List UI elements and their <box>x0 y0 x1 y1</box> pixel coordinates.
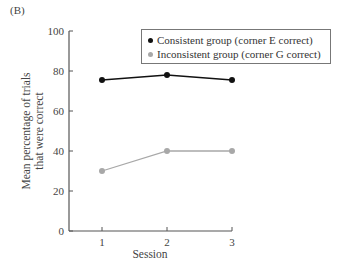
legend-marker-icon <box>148 38 153 43</box>
data-point-marker <box>164 148 170 154</box>
y-axis-title: Mean percentage of trialsthat were corre… <box>20 72 45 190</box>
data-point-marker <box>229 148 235 154</box>
y-axis-title-line: that were correct <box>33 92 45 170</box>
y-tick-label: 20 <box>53 185 65 197</box>
legend-label: Inconsistent group (corner G correct) <box>157 47 321 61</box>
data-point-marker <box>229 77 235 83</box>
y-tick-label: 0 <box>59 225 65 237</box>
y-tick-label: 60 <box>53 105 65 117</box>
legend-item-consistent: Consistent group (corner E correct) <box>148 33 324 47</box>
x-tick-label: 1 <box>99 236 105 248</box>
legend: Consistent group (corner E correct) Inco… <box>141 29 331 64</box>
y-tick-label: 80 <box>53 65 65 77</box>
x-tick-label: 2 <box>164 236 170 248</box>
data-point-marker <box>164 72 170 78</box>
y-tick-label: 100 <box>48 25 65 37</box>
legend-item-inconsistent: Inconsistent group (corner G correct) <box>148 47 324 61</box>
series-layer <box>99 72 235 174</box>
y-tick-label: 40 <box>53 145 65 157</box>
data-point-marker <box>99 168 105 174</box>
legend-marker-icon <box>148 52 153 57</box>
x-axis-title: Session <box>132 248 167 260</box>
x-tick-label: 3 <box>229 236 235 248</box>
y-axis-title-line: Mean percentage of trials <box>20 72 33 190</box>
legend-label: Consistent group (corner E correct) <box>157 33 313 47</box>
data-point-marker <box>99 77 105 83</box>
